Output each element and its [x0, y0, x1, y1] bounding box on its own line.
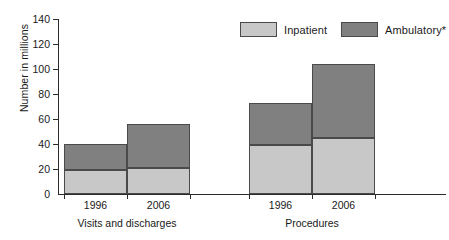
- y-tick-mark-40: [53, 144, 58, 145]
- y-tick-20: 20: [0, 164, 50, 174]
- y-tick-40: 40: [0, 139, 50, 149]
- x-tick-mark-3: [190, 195, 191, 199]
- y-tick-mark-100: [53, 69, 58, 70]
- y-tick-120: 120: [0, 39, 50, 49]
- y-tick-mark-120: [53, 44, 58, 45]
- y-tick-mark-80: [53, 94, 58, 95]
- legend-swatch-inpatient-icon: [240, 22, 277, 37]
- y-tick-label-80: 80: [24, 89, 50, 99]
- y-tick-60: 60: [0, 114, 50, 124]
- y-tick-80: 80: [0, 89, 50, 99]
- legend-item-ambulatory: Ambulatory*: [341, 22, 446, 37]
- bar-segment-ambulatory: [249, 103, 312, 144]
- x-axis-line: [58, 194, 446, 195]
- y-tick-label-40: 40: [24, 139, 50, 149]
- bar-stack-procedures-1996: [249, 103, 312, 194]
- legend: Inpatient Ambulatory*: [240, 22, 446, 37]
- legend-swatch-ambulatory-icon: [341, 22, 378, 37]
- bar-segment-inpatient: [64, 170, 127, 194]
- x-category-label-procedures-1996: 1996: [249, 199, 312, 211]
- y-tick-mark-20: [53, 169, 58, 170]
- y-tick-label-120: 120: [24, 39, 50, 49]
- bar-stack-visits-2006: [127, 124, 190, 194]
- x-group-label-procedures: Procedures: [249, 217, 375, 229]
- bar-segment-inpatient: [127, 168, 190, 194]
- bar-segment-ambulatory: [64, 144, 127, 170]
- x-group-label-visits-and-discharges: Visits and discharges: [64, 217, 190, 229]
- y-tick-mark-60: [53, 119, 58, 120]
- legend-item-inpatient: Inpatient: [240, 22, 327, 37]
- y-tick-mark-140: [53, 19, 58, 20]
- x-category-label-procedures-2006: 2006: [312, 199, 375, 211]
- x-category-label-visits-1996: 1996: [64, 199, 127, 211]
- bar-segment-inpatient: [312, 138, 375, 194]
- y-tick-label-60: 60: [24, 114, 50, 124]
- bar-segment-ambulatory: [312, 64, 375, 138]
- bar-stack-procedures-2006: [312, 64, 375, 194]
- y-tick-140: 140: [0, 14, 50, 24]
- bar-stack-visits-1996: [64, 144, 127, 194]
- y-tick-label-140: 140: [24, 14, 50, 24]
- bar-segment-ambulatory: [127, 124, 190, 168]
- legend-label-ambulatory: Ambulatory*: [385, 24, 446, 36]
- y-axis-line: [58, 19, 59, 195]
- legend-label-inpatient: Inpatient: [284, 24, 327, 36]
- bar-segment-inpatient: [249, 145, 312, 194]
- y-tick-label-100: 100: [24, 64, 50, 74]
- y-tick-0: 0: [0, 189, 50, 199]
- x-tick-mark-6: [375, 195, 376, 199]
- x-category-label-visits-2006: 2006: [127, 199, 190, 211]
- y-tick-label-20: 20: [24, 164, 50, 174]
- y-tick-100: 100: [0, 64, 50, 74]
- stacked-bar-chart: Number in millions 140 120 100 80 60 40 …: [0, 0, 449, 240]
- y-tick-label-0: 0: [24, 189, 50, 199]
